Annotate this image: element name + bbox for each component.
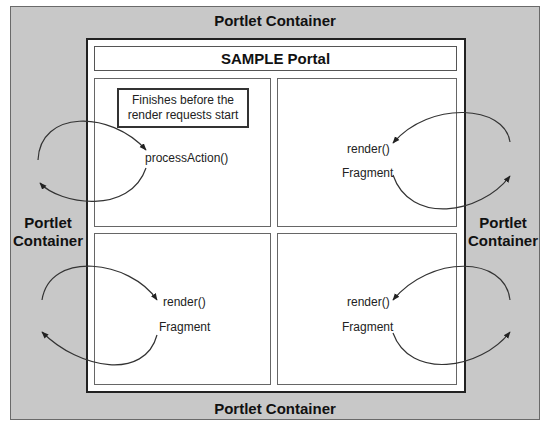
arrow-from-fragment-top-right	[393, 175, 510, 209]
arrow-to-render-bottom-right	[393, 266, 510, 300]
arrow-from-fragment-bottom-left	[42, 332, 157, 365]
arrow-from-process-action	[40, 168, 146, 201]
arrow-to-process-action	[38, 121, 146, 160]
arrow-to-render-top-right	[393, 112, 510, 143]
arrow-from-fragment-bottom-right	[393, 332, 510, 365]
flow-arrows	[0, 0, 546, 428]
arrow-to-render-bottom-left	[42, 266, 157, 300]
